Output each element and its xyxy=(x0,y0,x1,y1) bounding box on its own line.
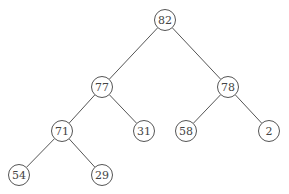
tree-node: 78 xyxy=(218,77,239,98)
tree-node: 31 xyxy=(134,121,155,142)
node-label: 58 xyxy=(179,125,193,138)
node-label: 29 xyxy=(95,169,109,182)
node-label: 82 xyxy=(158,14,172,27)
nodes-group: 82777871315825429 xyxy=(9,10,280,186)
node-label: 54 xyxy=(12,169,26,182)
tree-node: 2 xyxy=(259,121,280,142)
tree-edge xyxy=(235,95,262,124)
node-label: 2 xyxy=(266,125,273,138)
node-label: 78 xyxy=(221,81,235,94)
tree-node: 77 xyxy=(92,77,113,98)
tree-edge xyxy=(69,95,95,123)
node-label: 77 xyxy=(95,81,109,94)
tree-diagram: 82777871315825429 xyxy=(0,0,289,194)
node-label: 71 xyxy=(55,125,69,138)
tree-node: 82 xyxy=(155,10,176,31)
tree-edge xyxy=(172,28,221,80)
tree-svg: 82777871315825429 xyxy=(0,0,289,194)
tree-edge xyxy=(193,95,221,124)
tree-edge xyxy=(109,28,158,80)
tree-node: 54 xyxy=(9,165,30,186)
tree-edge xyxy=(69,139,95,167)
node-label: 31 xyxy=(137,125,151,138)
tree-node: 29 xyxy=(92,165,113,186)
tree-edge xyxy=(26,139,54,168)
tree-node: 58 xyxy=(176,121,197,142)
tree-edge xyxy=(109,95,137,124)
tree-node: 71 xyxy=(52,121,73,142)
